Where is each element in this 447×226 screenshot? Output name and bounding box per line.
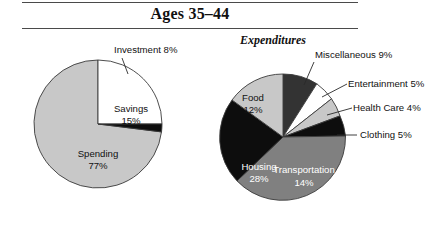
pie-charts-surface: Spending 77% Savings 15% Investment 8% xyxy=(0,0,447,226)
pie-label-spending-value: 77% xyxy=(88,160,108,171)
pie-label-entertainment: Entertainment 5% xyxy=(348,78,425,89)
pie-label-food-name: Food xyxy=(242,92,264,103)
pie-label-health-care: Health Care 4% xyxy=(353,102,421,113)
pie-label-investment: Investment 8% xyxy=(114,44,178,55)
pie-label-savings-name: Savings xyxy=(114,103,148,114)
pie-label-clothing: Clothing 5% xyxy=(360,129,412,140)
pie-label-housing-name: Housing xyxy=(241,161,276,172)
pie-label-savings-value: 15% xyxy=(121,115,141,126)
pie-label-transportation-value: 14% xyxy=(294,177,314,188)
chart-page: Ages 35–44 Expenditures Spending 77% Sav… xyxy=(0,0,447,226)
pie-label-transportation-name: Transportation xyxy=(273,164,335,175)
pie-chart-expenditures: Housing 28% Transportation 14% Food 12% … xyxy=(220,49,425,200)
pie-label-miscellaneous: Miscellaneous 9% xyxy=(315,49,393,60)
pie-label-spending-name: Spending xyxy=(78,148,119,159)
pie-label-food-value: 12% xyxy=(243,104,263,115)
leader-line-entertainment xyxy=(322,84,347,97)
pie-label-housing-value: 28% xyxy=(249,173,269,184)
pie-chart-income-allocation: Spending 77% Savings 15% Investment 8% xyxy=(34,44,178,188)
